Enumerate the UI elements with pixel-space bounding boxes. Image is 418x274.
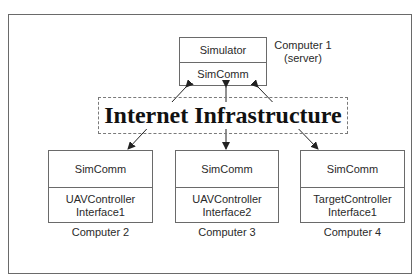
client-box-computer2: SimComm UAVController Interface1 bbox=[48, 150, 153, 223]
client-interface-line2: Interface1 bbox=[76, 206, 125, 219]
client-interface-line2: Interface1 bbox=[328, 206, 377, 219]
client-interface-line2: Interface2 bbox=[203, 206, 252, 219]
client-simcomm-cell: SimComm bbox=[301, 151, 404, 187]
internet-infrastructure-label: Internet Infrastructure bbox=[102, 102, 344, 129]
computer3-caption: Computer 3 bbox=[175, 226, 279, 239]
client-simcomm-cell: SimComm bbox=[176, 151, 278, 187]
client-box-computer4: SimComm TargetController Interface1 bbox=[300, 150, 405, 223]
client-interface-cell: TargetController Interface1 bbox=[301, 188, 404, 223]
client-interface-line1: TargetController bbox=[313, 193, 391, 206]
computer2-caption: Computer 2 bbox=[48, 226, 153, 239]
client-interface-cell: UAVController Interface2 bbox=[176, 188, 278, 223]
client-interface-cell: UAVController Interface1 bbox=[49, 188, 152, 223]
client-interface-line1: UAVController bbox=[192, 193, 262, 206]
client-simcomm-cell: SimComm bbox=[49, 151, 152, 187]
client-interface-line1: UAVController bbox=[66, 193, 136, 206]
internet-infrastructure-box: Internet Infrastructure bbox=[98, 97, 348, 134]
computer4-caption: Computer 4 bbox=[300, 226, 405, 239]
client-box-computer3: SimComm UAVController Interface2 bbox=[175, 150, 279, 223]
